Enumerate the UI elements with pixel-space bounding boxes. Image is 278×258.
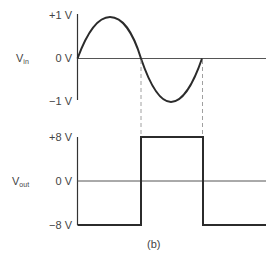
vin-tick-minus1: −1 V bbox=[32, 95, 72, 107]
vout-label: Vout bbox=[12, 175, 29, 188]
vin-tick-zero: 0 V bbox=[32, 52, 72, 64]
vout-tick-plus8: +8 V bbox=[32, 131, 72, 143]
vout-label-subscript: out bbox=[19, 181, 29, 188]
vout-tick-minus8: −8 V bbox=[32, 219, 72, 231]
vin-tick-plus1: +1 V bbox=[32, 9, 72, 21]
figure-caption: (b) bbox=[147, 238, 160, 250]
vin-label-subscript: in bbox=[23, 58, 28, 65]
vin-sine-wave bbox=[78, 17, 203, 102]
vout-tick-zero: 0 V bbox=[32, 175, 72, 187]
vin-label: Vin bbox=[16, 52, 29, 65]
